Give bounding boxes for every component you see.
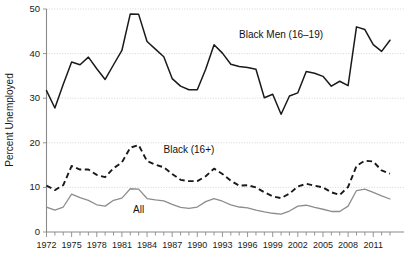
- x-tick-label-1984: 1984: [137, 240, 157, 250]
- chart-canvas: 01020304050 1972197519781981198419871990…: [0, 0, 410, 261]
- series-lines: [47, 14, 391, 214]
- x-tick-label-1975: 1975: [62, 240, 82, 250]
- unemployment-line-chart: 01020304050 1972197519781981198419871990…: [0, 0, 410, 261]
- annotation-black-16-plus: Black (16+): [163, 144, 214, 155]
- gridlines: [47, 9, 405, 187]
- y-tick-label-10: 10: [29, 181, 40, 192]
- x-axis: 1972197519781981198419871990199319961999…: [36, 232, 404, 250]
- x-tick-label-2011: 2011: [364, 240, 383, 250]
- y-axis: 01020304050: [29, 3, 46, 237]
- x-tick-label-1972: 1972: [36, 240, 56, 250]
- x-tick-label-1999: 1999: [263, 240, 283, 250]
- y-tick-label-40: 40: [29, 48, 40, 59]
- annotation-black-men-16-19: Black Men (16–19): [239, 29, 323, 40]
- series-line-black-men-16-19: [47, 14, 391, 114]
- y-tick-label-20: 20: [29, 137, 40, 148]
- annotation-all: All: [133, 204, 144, 215]
- x-tick-label-2005: 2005: [313, 240, 333, 250]
- series-line-all: [47, 189, 391, 214]
- x-tick-label-1981: 1981: [112, 240, 132, 250]
- x-tick-label-1978: 1978: [87, 240, 107, 250]
- x-tick-label-1993: 1993: [212, 240, 232, 250]
- y-tick-label-50: 50: [29, 3, 40, 14]
- x-tick-label-1996: 1996: [238, 240, 258, 250]
- series-line-black-16-plus: [47, 145, 391, 198]
- x-tick-label-2008: 2008: [338, 240, 358, 250]
- x-tick-label-1990: 1990: [187, 240, 207, 250]
- x-tick-label-2002: 2002: [288, 240, 308, 250]
- y-tick-label-0: 0: [35, 226, 40, 237]
- y-axis-title: Percent Unemployed: [4, 73, 15, 166]
- x-tick-label-1987: 1987: [162, 240, 182, 250]
- y-tick-label-30: 30: [29, 92, 40, 103]
